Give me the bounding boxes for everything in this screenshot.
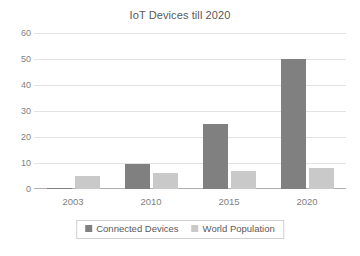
y-axis-tick-label: 50 xyxy=(3,55,31,64)
x-axis-tick-label: 2010 xyxy=(112,197,190,207)
x-axis-tick-label: 2020 xyxy=(268,197,346,207)
y-axis-tick-label: 10 xyxy=(3,159,31,168)
y-axis-tick-label: 30 xyxy=(3,107,31,116)
legend-swatch-icon xyxy=(192,225,199,232)
legend-label: World Population xyxy=(203,224,275,234)
plot-area xyxy=(34,33,346,189)
bar xyxy=(125,164,150,189)
bar xyxy=(75,176,100,189)
bar xyxy=(231,171,256,189)
x-axis-tick-label: 2003 xyxy=(34,197,112,207)
y-axis: 0102030405060 xyxy=(0,33,31,189)
chart-title: IoT Devices till 2020 xyxy=(0,9,360,21)
x-axis: 2003201020152020 xyxy=(34,192,346,206)
legend-label: Connected Devices xyxy=(96,224,178,234)
bar-group xyxy=(34,33,112,189)
chart-container: IoT Devices till 2020 0102030405060 2003… xyxy=(0,0,360,256)
legend-item[interactable]: World Population xyxy=(192,224,275,234)
chart-legend: Connected DevicesWorld Population xyxy=(76,220,284,239)
bar xyxy=(203,124,228,189)
bar xyxy=(281,59,306,189)
y-axis-tick-label: 60 xyxy=(3,29,31,38)
legend-item[interactable]: Connected Devices xyxy=(85,224,178,234)
y-axis-tick-label: 40 xyxy=(3,81,31,90)
x-axis-tick-label: 2015 xyxy=(190,197,268,207)
y-axis-tick-label: 20 xyxy=(3,133,31,142)
bar xyxy=(153,173,178,189)
bar-group xyxy=(112,33,190,189)
legend-swatch-icon xyxy=(85,225,92,232)
y-axis-tick-label: 0 xyxy=(3,185,31,194)
bar xyxy=(309,168,334,189)
bar-group xyxy=(190,33,268,189)
bar xyxy=(47,188,72,189)
bar-group xyxy=(268,33,346,189)
